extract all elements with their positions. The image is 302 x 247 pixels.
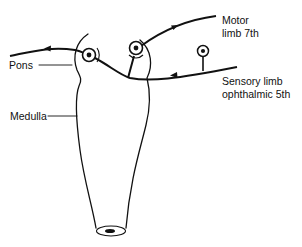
motor-label-line2: limb 7th — [222, 27, 259, 39]
motor-limb-line — [141, 16, 216, 46]
medulla-label: Medulla — [10, 110, 47, 122]
pons-label: Pons — [9, 59, 33, 71]
central-canal — [97, 226, 126, 236]
central-connection-line — [95, 58, 237, 80]
brainstem-left-outline — [75, 34, 96, 228]
reflex-pathway-diagram: Pons Medulla Motor limb 7th Sensory limb… — [0, 0, 302, 247]
trigeminal-sensory-neuron — [198, 46, 209, 57]
motor-label-line1: Motor — [222, 14, 249, 26]
arrowheads — [44, 25, 178, 78]
sensory-label-line1: Sensory limb — [222, 75, 283, 87]
sensory-label-line2: ophthalmic 5th — [222, 88, 290, 100]
left-arrow-icon — [44, 46, 51, 52]
facial-motor-neuron — [129, 42, 143, 59]
middle-neuron-stem — [128, 56, 134, 78]
